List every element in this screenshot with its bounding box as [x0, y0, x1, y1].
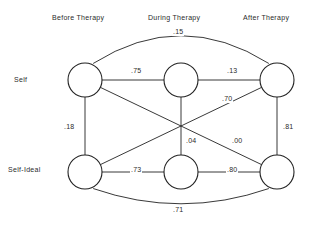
column-header-0: Before Therapy — [52, 14, 104, 21]
correlation-diagram: Before TherapyDuring TherapyAfter Therap… — [0, 0, 314, 227]
edge-self-before--self-after — [93, 36, 269, 64]
edge-value-self-before--self-during: .75 — [130, 67, 142, 75]
node-self-before[interactable] — [68, 63, 102, 97]
node-ideal-after[interactable] — [260, 155, 294, 189]
node-self-during[interactable] — [164, 63, 198, 97]
node-self-after[interactable] — [260, 63, 294, 97]
row-label-0: Self — [14, 76, 27, 83]
edge-value-ideal-during--ideal-after: .80 — [226, 166, 238, 174]
edge-value-self-before--ideal-after: .00 — [231, 137, 243, 145]
graph-canvas — [0, 0, 314, 227]
edge-value-self-during--ideal-during: .04 — [185, 137, 197, 145]
column-header-1: During Therapy — [148, 14, 200, 21]
edge-value-self-before--self-after: .15 — [172, 28, 184, 36]
edge-value-ideal-before--ideal-after: .71 — [172, 206, 184, 214]
row-label-1: Self-Ideal — [8, 166, 41, 173]
column-header-2: After Therapy — [243, 14, 289, 21]
node-ideal-before[interactable] — [68, 155, 102, 189]
edge-ideal-before--ideal-after — [93, 189, 269, 204]
edge-value-self-during--self-after: .13 — [226, 67, 238, 75]
edge-value-self-after--ideal-after: .81 — [282, 123, 294, 131]
edge-value-ideal-before--self-after: .70 — [221, 95, 233, 103]
edge-value-self-before--ideal-before: .18 — [63, 123, 75, 131]
edge-value-ideal-before--ideal-during: .73 — [130, 166, 142, 174]
node-ideal-during[interactable] — [164, 155, 198, 189]
